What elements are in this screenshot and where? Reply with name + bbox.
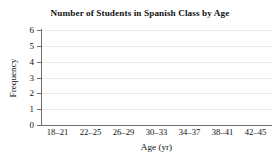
plot-area [41,30,272,125]
x-tick-label: 18–21 [47,127,68,138]
x-axis-tick-labels: 18–21 22–25 26–29 30–33 34–37 38–41 42–4… [41,127,272,139]
gridline [41,78,272,79]
x-tick-label: 38–41 [212,127,233,138]
y-axis-line [41,29,42,126]
y-tick-mark [37,125,41,126]
y-tick-mark [37,62,41,63]
y-axis-label-text: Frequency [8,58,18,97]
y-tick-label: 0 [20,121,34,130]
x-tick-label: 30–33 [146,127,167,138]
gridline [41,30,272,31]
x-tick-label: 22–25 [80,127,101,138]
y-tick-mark [37,109,41,110]
gridlines [41,30,272,125]
y-tick-label: 2 [20,89,34,98]
y-tick-label: 1 [20,105,34,114]
y-tick-mark [37,93,41,94]
gridline [41,93,272,94]
y-tick-mark [37,46,41,47]
x-axis-line [41,125,272,126]
x-tick-label: 34–37 [179,127,200,138]
x-tick-label: 26–29 [113,127,134,138]
y-tick-label: 5 [20,42,34,51]
gridline [41,109,272,110]
y-tick-mark [37,78,41,79]
y-tick-mark [37,30,41,31]
x-axis-label: Age (yr) [41,142,272,152]
x-tick-label: 42–45 [245,127,266,138]
y-tick-label: 6 [20,26,34,35]
chart-figure: Number of Students in Spanish Class by A… [0,0,280,162]
gridline [41,62,272,63]
y-axis-tick-labels: 6 5 4 3 2 1 0 [18,0,34,162]
chart-title: Number of Students in Spanish Class by A… [0,8,280,18]
y-tick-label: 3 [20,74,34,83]
gridline [41,46,272,47]
y-tick-label: 4 [20,58,34,67]
